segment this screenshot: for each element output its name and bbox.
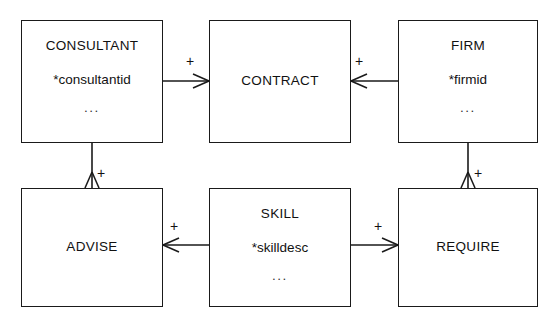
connector-firm-require (461, 143, 475, 188)
entity-name-advise: ADVISE (66, 240, 117, 255)
entity-name-contract: CONTRACT (241, 74, 318, 89)
entity-box-advise[interactable]: ADVISE (21, 188, 163, 307)
cardinality-label-consultant-contract: + (186, 54, 194, 68)
entity-name-skill: SKILL (261, 207, 299, 222)
entity-box-skill[interactable]: SKILL *skilldesc ... (209, 188, 351, 307)
entity-name-firm: FIRM (451, 39, 485, 54)
connector-skill-require (351, 238, 398, 252)
entity-key-consultant: *consultantid (53, 73, 130, 88)
entity-box-require[interactable]: REQUIRE (398, 188, 538, 307)
entity-box-contract[interactable]: CONTRACT (209, 20, 351, 143)
cardinality-label-contract-firm: + (355, 54, 363, 68)
cardinality-label-skill-require: + (374, 219, 382, 233)
cardinality-label-firm-require: + (474, 166, 482, 180)
er-diagram-canvas: CONSULTANT *consultantid ... CONTRACT FI… (0, 0, 556, 328)
entity-ellipsis-firm: ... (460, 101, 476, 116)
entity-ellipsis-skill: ... (272, 269, 288, 284)
connector-contract-firm (351, 74, 398, 88)
entity-name-require: REQUIRE (436, 240, 500, 255)
entity-box-consultant[interactable]: CONSULTANT *consultantid ... (21, 20, 163, 143)
entity-box-firm[interactable]: FIRM *firmid ... (398, 20, 538, 143)
connector-advise-skill (163, 238, 209, 252)
entity-ellipsis-consultant: ... (84, 101, 100, 116)
connector-consultant-contract (163, 74, 209, 88)
cardinality-label-advise-skill: + (170, 219, 178, 233)
entity-name-consultant: CONSULTANT (46, 39, 139, 54)
entity-key-firm: *firmid (449, 73, 487, 88)
entity-key-skill: *skilldesc (252, 241, 308, 256)
cardinality-label-consultant-advise: + (97, 166, 105, 180)
